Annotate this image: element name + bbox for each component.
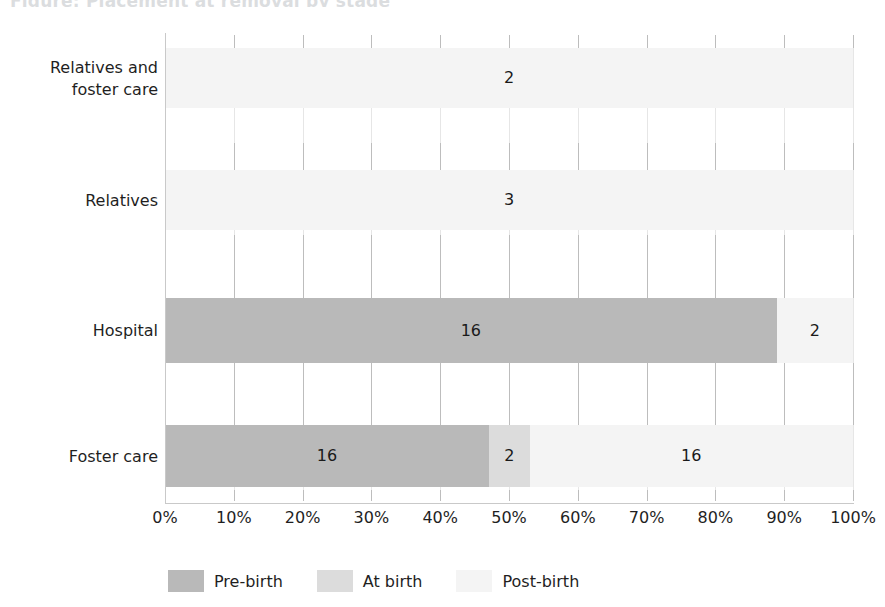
legend-label: Pre-birth [214,572,283,591]
bar-row[interactable]: 3 [165,170,853,230]
axis-tick-mark [578,143,579,170]
axis-tick-mark [647,363,648,425]
chart-title: Figure: Placement at removal by stage [10,0,870,7]
bar-segment-post-birth[interactable]: 3 [165,170,853,230]
x-tick-label: 60% [560,508,596,527]
stacked-bar-chart: Figure: Placement at removal by stage 23… [0,0,885,607]
bar-value-label: 2 [504,448,514,464]
axis-tick-mark [784,490,785,501]
x-tick-label: 0% [152,508,177,527]
legend-item[interactable]: At birth [317,570,457,592]
axis-tick-mark [853,235,854,298]
axis-tick-mark [647,35,648,48]
axis-tick-mark [234,143,235,170]
axis-tick-mark [371,363,372,425]
bar-row[interactable]: 16216 [165,425,853,487]
x-tick-label: 10% [216,508,252,527]
axis-tick-mark [234,490,235,501]
x-tick-label: 50% [491,508,527,527]
bar-row[interactable]: 2 [165,48,853,108]
x-tick-label: 100% [830,508,876,527]
axis-tick-mark [440,143,441,170]
legend-label: Post-birth [502,572,579,591]
bar-segment-pre-birth[interactable]: 16 [165,425,489,487]
axis-tick-mark [303,235,304,298]
chart-legend: Pre-birthAt birthPost-birth [168,568,613,594]
bar-value-label: 2 [504,70,514,86]
legend-item[interactable]: Pre-birth [168,570,317,592]
axis-tick-mark [715,235,716,298]
category-label: Hospital [3,320,158,342]
bar-segment-at-birth[interactable]: 2 [489,425,530,487]
bar-segment-post-birth[interactable]: 2 [165,48,853,108]
axis-tick-mark [303,35,304,48]
plot-area: 2316216216 [165,35,853,501]
x-tick-label: 90% [766,508,802,527]
axis-tick-mark [371,143,372,170]
axis-tick-mark [715,363,716,425]
category-label-line: Relatives and [3,57,158,79]
bar-value-label: 2 [810,323,820,339]
x-axis-tick-labels: 0%10%20%30%40%50%60%70%80%90%100% [165,508,853,532]
axis-tick-mark [440,235,441,298]
axis-tick-mark [371,35,372,48]
axis-tick-mark [371,235,372,298]
axis-tick-mark [647,490,648,501]
legend-swatch-icon [456,570,492,592]
axis-tick-mark [440,363,441,425]
axis-tick-mark [578,235,579,298]
legend-swatch-icon [168,570,204,592]
category-label-line: foster care [3,79,158,101]
x-tick-label: 80% [698,508,734,527]
x-tick-label: 70% [629,508,665,527]
axis-tick-mark [578,35,579,48]
axis-tick-mark [715,490,716,501]
bar-value-label: 3 [504,192,514,208]
category-label-line: Hospital [3,320,158,342]
axis-tick-mark [509,143,510,170]
legend-swatch-icon [317,570,353,592]
axis-tick-mark [234,363,235,425]
axis-tick-mark [647,235,648,298]
axis-tick-mark [647,143,648,170]
bar-segment-pre-birth[interactable]: 16 [165,298,777,363]
axis-tick-mark [509,490,510,501]
axis-tick-mark [303,143,304,170]
axis-tick-mark [784,35,785,48]
axis-tick-mark [509,235,510,298]
axis-tick-mark [715,143,716,170]
axis-tick-mark [784,235,785,298]
axis-tick-mark [234,35,235,48]
category-label-line: Relatives [3,190,158,212]
axis-tick-mark [303,363,304,425]
category-label: Relatives [3,190,158,212]
axis-tick-mark [303,490,304,501]
axis-tick-mark [853,363,854,425]
category-label: Relatives andfoster care [3,57,158,100]
x-tick-label: 30% [354,508,390,527]
x-axis-line [165,503,854,504]
bar-segment-post-birth[interactable]: 2 [777,298,853,363]
y-axis-category-labels: Relatives andfoster careRelativesHospita… [0,35,158,501]
axis-tick-mark [578,363,579,425]
axis-tick-mark [853,35,854,48]
bar-row[interactable]: 162 [165,298,853,363]
legend-label: At birth [363,572,423,591]
x-tick-label: 20% [285,508,321,527]
axis-tick-mark [784,363,785,425]
bar-value-label: 16 [681,448,701,464]
axis-tick-mark [715,35,716,48]
axis-tick-mark [784,143,785,170]
category-label: Foster care [3,446,158,468]
axis-tick-mark [440,490,441,501]
bar-segment-post-birth[interactable]: 16 [530,425,853,487]
category-label-line: Foster care [3,446,158,468]
axis-tick-mark [440,35,441,48]
axis-tick-mark [853,143,854,170]
axis-tick-mark [234,235,235,298]
axis-tick-mark [578,490,579,501]
axis-tick-mark [371,490,372,501]
x-tick-label: 40% [422,508,458,527]
axis-tick-mark [509,35,510,48]
legend-item[interactable]: Post-birth [456,570,613,592]
